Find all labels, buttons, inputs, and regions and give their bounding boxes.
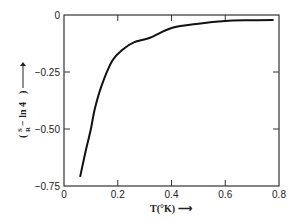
svg-text:−0.25: −0.25	[35, 67, 61, 78]
svg-text:S: S	[16, 128, 24, 132]
svg-text:0.2: 0.2	[111, 189, 125, 200]
data-curve	[80, 20, 274, 177]
x-axis-label: T(°K) ⟶	[150, 203, 193, 215]
svg-text:0.6: 0.6	[218, 189, 232, 200]
tick-labels: 00.20.40.60.80−0.25−0.50−0.75	[35, 10, 287, 200]
svg-text:0.4: 0.4	[165, 189, 179, 200]
y-axis-label: ( S R − ln 4 )	[16, 62, 32, 138]
svg-text:−0.75: −0.75	[35, 181, 61, 192]
svg-text:− ln 4: − ln 4	[17, 102, 28, 126]
svg-text:0: 0	[54, 10, 60, 21]
svg-text:(: (	[17, 134, 29, 138]
entropy-chart: 00.20.40.60.80−0.25−0.50−0.75 T(°K) ⟶ ( …	[0, 0, 302, 221]
svg-text:0: 0	[61, 189, 67, 200]
svg-text:): )	[17, 91, 29, 94]
svg-text:−0.50: −0.50	[35, 124, 61, 135]
svg-text:0.8: 0.8	[272, 189, 286, 200]
